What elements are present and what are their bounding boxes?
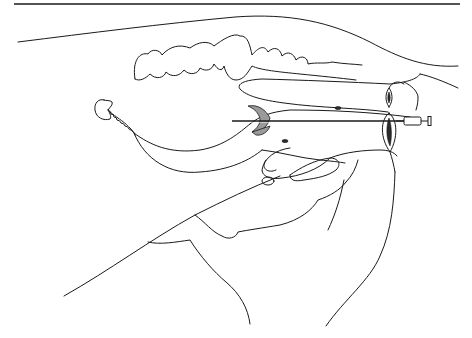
vertebral-column [134,35,362,80]
rectum-outline [420,74,458,88]
perineal-opening-lower-fill [387,118,392,146]
bladder-outline [134,124,262,172]
syringe [396,117,431,126]
diagram-canvas [0,0,472,338]
dorsal-outline [18,16,458,66]
thigh-rear [326,172,395,326]
thigh-front [148,240,250,324]
nodule-upper [335,107,341,110]
perineal-opening-upper-fill [388,92,390,103]
kidney [95,100,112,120]
nodule-lower [282,139,288,142]
abdominal-line [64,176,280,296]
intestinal-loop [239,74,420,112]
anatomical-diagram [0,0,472,338]
